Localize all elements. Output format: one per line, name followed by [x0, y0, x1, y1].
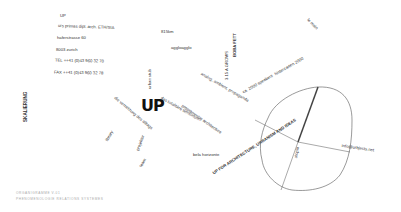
- footer-line-1: ORGANIGRAMME V.01: [16, 191, 60, 195]
- radial-line: [281, 142, 298, 190]
- radial-line-thick: [298, 87, 318, 142]
- blob-outline: [260, 87, 352, 191]
- email-line: [298, 142, 350, 152]
- circle-diagram: [0, 0, 401, 212]
- cross-line: [255, 120, 298, 142]
- footer-line-2: PHENOMENOLOGIE RELATIONS SYSTEMES: [16, 197, 103, 201]
